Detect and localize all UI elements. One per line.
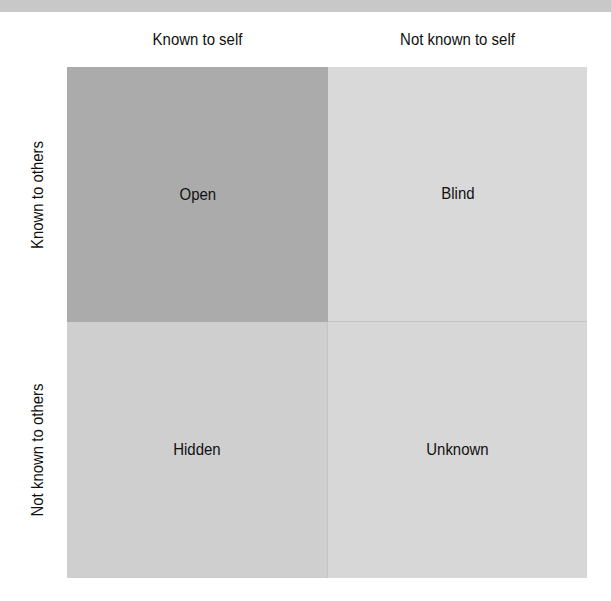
quadrant-unknown-label: Unknown <box>426 440 488 460</box>
quadrant-open-label: Open <box>179 185 216 205</box>
quadrant-hidden-label: Hidden <box>173 440 220 460</box>
quadrant-unknown: Unknown <box>328 322 587 578</box>
top-band <box>0 0 611 12</box>
quadrant-open: Open <box>67 67 328 322</box>
row-header-known-to-others: Known to others <box>18 67 58 322</box>
row-header-not-known-to-others-label: Not known to others <box>28 383 48 516</box>
column-header-known-to-self: Known to self <box>83 20 313 60</box>
row-header-not-known-to-others: Not known to others <box>18 322 58 578</box>
row-header-known-to-others-label: Known to others <box>28 140 48 248</box>
quadrant-blind-label: Blind <box>441 184 474 204</box>
johari-grid: Open Blind Hidden Unknown <box>67 67 587 578</box>
quadrant-blind: Blind <box>328 67 587 322</box>
quadrant-hidden: Hidden <box>67 322 328 578</box>
column-header-not-known-to-self: Not known to self <box>344 20 572 60</box>
